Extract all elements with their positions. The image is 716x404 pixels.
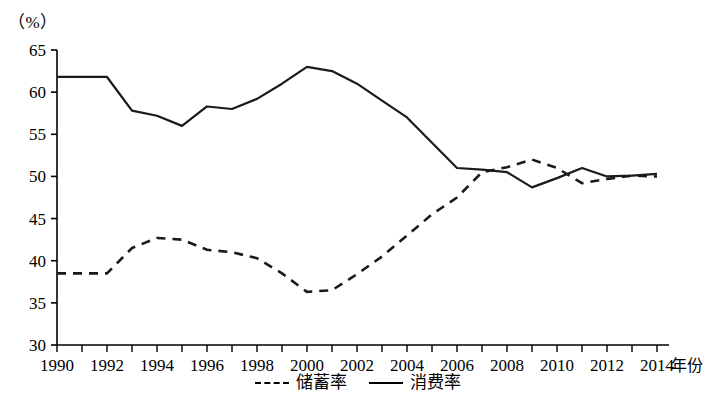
y-axis-tick-label: 65 <box>29 41 46 60</box>
legend-label-savings-rate: 储蓄率 <box>296 374 347 391</box>
y-axis-tick-label: 40 <box>29 252 46 271</box>
y-axis-tick-label: 60 <box>29 83 46 102</box>
series-line-savings-rate <box>57 160 657 292</box>
consumption-savings-rate-chart: （%） 6560555045403530 1990199219941996199… <box>0 0 716 404</box>
x-axis-tick-label: 1992 <box>90 356 124 375</box>
x-axis-tick-label: 2014 <box>640 356 675 375</box>
x-axis-tick-label: 1996 <box>190 356 224 375</box>
y-axis-tick-label: 55 <box>29 125 46 144</box>
x-axis-tick-label: 1994 <box>140 356 175 375</box>
legend-label-consumption-rate: 消费率 <box>410 374 461 391</box>
y-axis-tick-label: 45 <box>29 210 46 229</box>
y-axis: 6560555045403530 <box>29 41 57 355</box>
x-axis-tick-label: 1998 <box>240 356 274 375</box>
x-axis-tick-label: 2008 <box>490 356 524 375</box>
x-axis-tick-label: 2010 <box>540 356 574 375</box>
x-axis-tick-label: 1990 <box>40 356 74 375</box>
data-series-group <box>57 67 657 292</box>
legend-item-consumption-rate[interactable]: 消费率 <box>369 374 461 391</box>
x-axis-tick-label: 2012 <box>590 356 624 375</box>
x-axis-title: 年份 <box>671 357 703 374</box>
y-axis-tick-label: 35 <box>29 294 46 313</box>
legend-swatch-dashed-icon <box>255 382 289 384</box>
legend-swatch-solid-icon <box>369 382 403 384</box>
chart-legend: 储蓄率 消费率 <box>0 374 716 391</box>
y-axis-tick-label: 50 <box>29 167 46 186</box>
series-line-consumption-rate <box>57 67 657 188</box>
legend-item-savings-rate[interactable]: 储蓄率 <box>255 374 347 391</box>
y-axis-tick-label: 30 <box>29 336 46 355</box>
chart-plot-area: 6560555045403530 19901992199419961998200… <box>0 0 716 404</box>
x-axis: 1990199219941996199820002002200420062008… <box>40 345 675 375</box>
